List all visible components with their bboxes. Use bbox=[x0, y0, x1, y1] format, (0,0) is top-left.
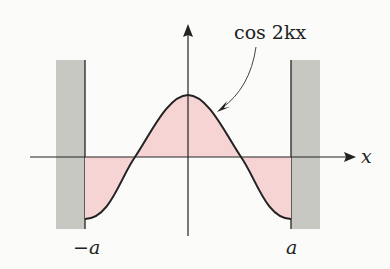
right-wall bbox=[291, 60, 320, 229]
left-wall bbox=[56, 60, 85, 229]
curve-label: cos 2kx bbox=[234, 21, 306, 43]
right-wall-label: a bbox=[286, 236, 297, 258]
left-wall-label: −a bbox=[73, 236, 100, 258]
infinite-well-diagram: cos 2kx x −a a bbox=[0, 0, 390, 269]
callout-arrow bbox=[222, 47, 256, 108]
x-axis-label: x bbox=[361, 145, 372, 167]
